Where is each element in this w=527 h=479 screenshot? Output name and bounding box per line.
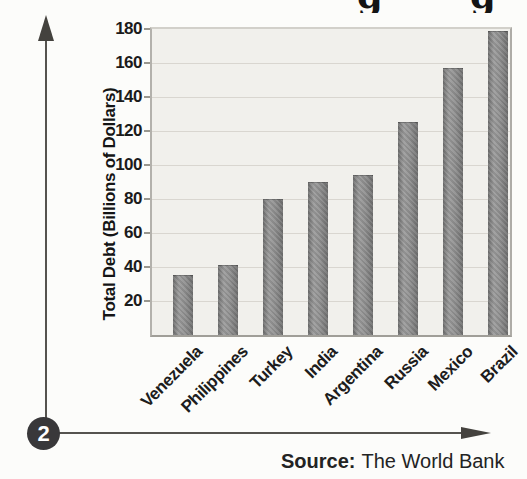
x-tick-label: Brazil — [477, 342, 522, 387]
y-tick-label: 100 — [98, 155, 142, 175]
y-tick-label: 180 — [98, 19, 142, 39]
y-axis-tick — [144, 130, 150, 132]
bar-philippines — [218, 265, 238, 335]
cropped-title-letter: g — [357, 0, 383, 13]
textbook-figure-page: g g 2 Total Debt (Billions of Dollars) S… — [0, 0, 527, 479]
y-tick-label: 80 — [98, 189, 142, 209]
gridline — [152, 63, 510, 64]
y-tick-label: 40 — [98, 257, 142, 277]
figure-number-badge: 2 — [27, 417, 60, 450]
bar-russia — [398, 122, 418, 335]
bar-brazil — [488, 31, 508, 335]
source-credit: Source:The World Bank — [281, 450, 505, 473]
right-arrow-icon — [461, 427, 491, 439]
cropped-title: g g — [0, 0, 527, 13]
x-tick-label: Mexico — [424, 342, 477, 395]
y-axis-tick — [144, 96, 150, 98]
up-arrow-icon — [38, 15, 54, 41]
x-tick-label: Russia — [380, 342, 432, 394]
y-axis-tick — [144, 266, 150, 268]
y-axis-tick — [144, 232, 150, 234]
source-label: Source: — [281, 450, 355, 472]
y-tick-label: 120 — [98, 121, 142, 141]
y-tick-label: 140 — [98, 87, 142, 107]
x-tick-label: India — [301, 342, 342, 383]
y-tick-label: 160 — [98, 53, 142, 73]
bar-india — [308, 182, 328, 335]
figure-horizontal-axis-line — [59, 432, 463, 434]
y-axis-tick — [144, 198, 150, 200]
figure-vertical-axis-line — [45, 38, 47, 418]
x-tick-label: Turkey — [246, 342, 297, 393]
y-axis-tick — [144, 28, 150, 30]
bar-argentina — [353, 175, 373, 335]
cropped-title-letter: g — [470, 0, 496, 13]
y-axis-tick — [144, 300, 150, 302]
bar-chart-plot-area: Total Debt (Billions of Dollars) — [150, 27, 512, 337]
bar-venezuela — [173, 275, 193, 335]
y-axis-tick — [144, 62, 150, 64]
bar-turkey — [263, 199, 283, 335]
bar-mexico — [443, 68, 463, 335]
y-axis-tick — [144, 164, 150, 166]
y-tick-label: 60 — [98, 223, 142, 243]
source-text: The World Bank — [361, 450, 504, 472]
y-tick-label: 20 — [98, 291, 142, 311]
